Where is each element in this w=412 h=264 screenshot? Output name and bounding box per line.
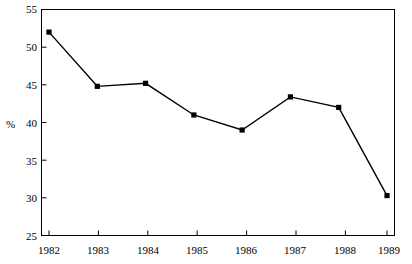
- line-chart: % 55 50 45 40 35 30 25 1982 1983 1984 19…: [0, 0, 412, 264]
- data-point-marker: [143, 81, 148, 86]
- plot-area: [0, 0, 412, 264]
- data-point-marker: [95, 84, 100, 89]
- data-point-marker: [384, 193, 389, 198]
- data-point-marker: [191, 112, 196, 117]
- data-point-marker: [240, 127, 245, 132]
- data-point-marker: [46, 30, 51, 35]
- data-point-marker: [336, 105, 341, 110]
- data-point-marker: [288, 94, 293, 99]
